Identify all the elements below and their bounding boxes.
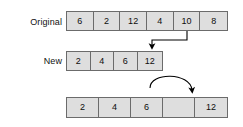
array-cell: 2 — [67, 98, 99, 117]
array-cell: 6 — [67, 12, 94, 30]
diagram-canvas: Original 6 2 12 4 10 8 New 2 4 6 12 2 4 … — [0, 0, 243, 127]
array-cell: 8 — [200, 12, 227, 30]
array-cell: 4 — [99, 98, 131, 117]
array-cell: 12 — [138, 52, 162, 70]
array-cell: 4 — [91, 52, 115, 70]
array-cell: 10 — [174, 12, 201, 30]
array-row-new: 2 4 6 12 — [66, 51, 163, 71]
array-row-shifted: 2 4 6 12 — [66, 97, 228, 118]
array-cell: 4 — [147, 12, 174, 30]
shift-12-arrow — [150, 76, 192, 90]
array-cell: 6 — [131, 98, 163, 117]
array-cell: 6 — [114, 52, 138, 70]
array-cell: 12 — [195, 98, 227, 117]
array-cell: 2 — [94, 12, 121, 30]
select-10-arrow — [152, 31, 187, 46]
row-label-new: New — [4, 56, 62, 67]
array-row-original: 6 2 12 4 10 8 — [66, 11, 228, 31]
array-cell: 2 — [67, 52, 91, 70]
row-label-original: Original — [4, 17, 62, 28]
array-cell: 12 — [120, 12, 147, 30]
array-cell-empty — [163, 98, 195, 117]
